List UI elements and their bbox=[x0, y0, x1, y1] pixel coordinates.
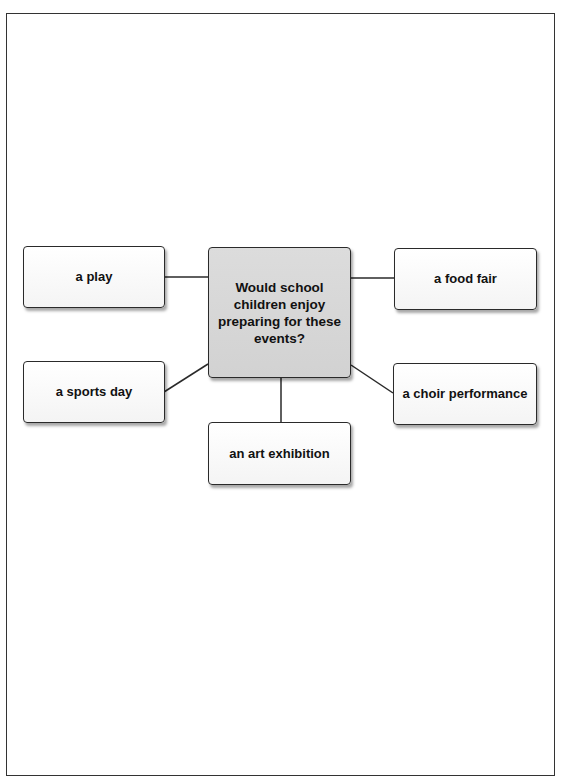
option-label: a food fair bbox=[434, 271, 497, 287]
option-label: a play bbox=[76, 269, 113, 285]
connector-sports-day bbox=[164, 364, 208, 392]
central-question-box: Would school children enjoy preparing fo… bbox=[208, 247, 351, 378]
option-label: a sports day bbox=[56, 384, 133, 400]
connector-choir bbox=[351, 365, 393, 393]
option-box-art-exhibition: an art exhibition bbox=[208, 422, 351, 485]
option-label: a choir performance bbox=[403, 386, 528, 402]
central-question: Would school children enjoy preparing fo… bbox=[218, 279, 341, 347]
option-box-sports-day: a sports day bbox=[23, 361, 165, 423]
option-box-choir-performance: a choir performance bbox=[393, 363, 537, 425]
option-box-food-fair: a food fair bbox=[394, 248, 537, 310]
option-label: an art exhibition bbox=[229, 446, 329, 462]
option-box-play: a play bbox=[23, 246, 165, 308]
